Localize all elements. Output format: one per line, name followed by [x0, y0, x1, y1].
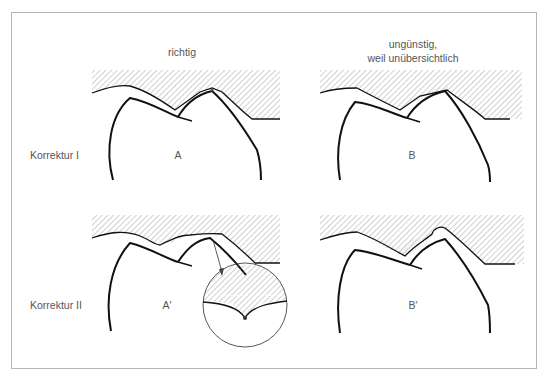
panel-label-b: B — [408, 149, 415, 161]
panel-label-a-prime: A′ — [163, 299, 172, 311]
panel-a-drawing — [92, 70, 280, 180]
column-heading-unfavorable-line1: ungünstig, — [389, 38, 437, 50]
panel-label-b-prime: B′ — [409, 299, 418, 311]
panel-b-prime-drawing — [320, 215, 524, 333]
panel-label-a: A — [174, 149, 181, 161]
tooth-diagrams — [0, 0, 547, 377]
row-label-correction-1: Korrektur I — [30, 149, 79, 161]
row-label-correction-2: Korrektur II — [30, 299, 82, 311]
column-heading-correct: richtig — [168, 46, 196, 58]
column-heading-unfavorable-line2: weil unübersichtlich — [367, 52, 458, 64]
panel-a-prime-drawing — [92, 215, 290, 347]
panel-b-drawing — [320, 70, 522, 182]
